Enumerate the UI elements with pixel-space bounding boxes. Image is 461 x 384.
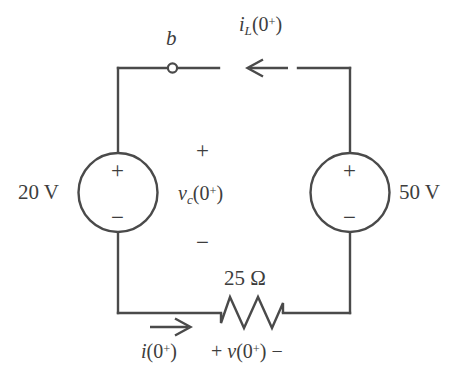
switch-terminal-b-label: b — [166, 28, 177, 49]
resistor-voltage-label: + v(0+) − — [211, 341, 283, 361]
mesh-current-label: i(0+) — [141, 341, 177, 361]
inductor-current-arg: (0 — [252, 13, 269, 35]
inductor-current-label: iL(0+) — [239, 14, 282, 37]
source-right-minus-sign: − — [343, 206, 356, 229]
capacitor-voltage-minus-sign: − — [196, 231, 209, 254]
mesh-current-arrow — [150, 319, 191, 336]
capacitor-voltage-arg: (0 — [193, 182, 210, 204]
circuit-diagram: b iL(0+) 20 V + − 50 V + − + vc(0+) − 25… — [0, 0, 461, 384]
capacitor-voltage-close: ) — [216, 182, 223, 204]
resistor-voltage-arg: (0 — [236, 340, 253, 362]
inductor-current-subscript: L — [245, 23, 252, 38]
resistor-voltage-plus-sign: + — [211, 340, 222, 362]
inductor-current-close: ) — [276, 13, 283, 35]
resistor-zigzag — [221, 297, 283, 328]
mesh-current-close: ) — [170, 340, 177, 362]
capacitor-voltage-label: vc(0+) — [178, 183, 223, 206]
resistor-voltage-var: v — [227, 340, 236, 362]
switch-terminal-b-node — [168, 63, 177, 72]
source-right-plus-sign: + — [343, 159, 356, 182]
resistor-voltage-close: ) — [260, 340, 267, 362]
source-left-minus-sign: − — [111, 206, 124, 229]
source-right-label: 50 V — [399, 182, 440, 203]
resistor-voltage-minus-sign: − — [272, 340, 283, 362]
resistor-voltage-superscript: + — [253, 342, 260, 356]
capacitor-voltage-plus-sign: + — [196, 139, 209, 162]
mesh-current-arg: (0 — [147, 340, 164, 362]
capacitor-voltage-var: v — [178, 182, 187, 204]
inductor-current-superscript: + — [269, 15, 276, 29]
resistor-label: 25 Ω — [224, 268, 266, 289]
schematic-wires — [0, 0, 461, 384]
inductor-current-arrow — [248, 60, 289, 77]
source-left-label: 20 V — [18, 182, 59, 203]
source-left-plus-sign: + — [111, 159, 124, 182]
